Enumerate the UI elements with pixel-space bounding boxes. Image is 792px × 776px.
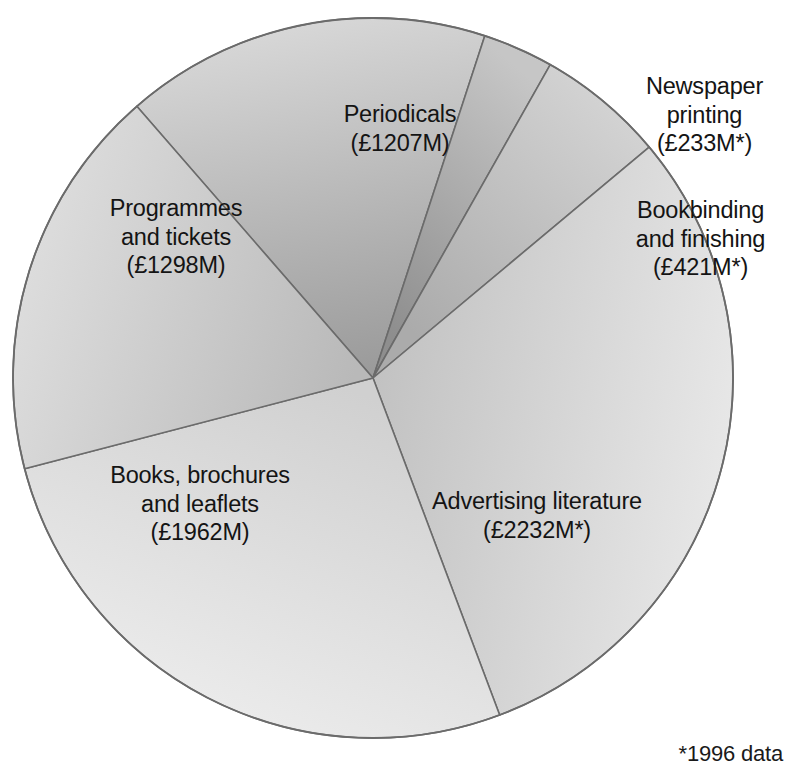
pie-slice-group xyxy=(13,18,733,738)
chart-page: UK printing market by sector Periodicals… xyxy=(0,0,792,776)
footnote-text: *1996 data xyxy=(679,741,783,767)
pie-chart xyxy=(0,0,792,776)
